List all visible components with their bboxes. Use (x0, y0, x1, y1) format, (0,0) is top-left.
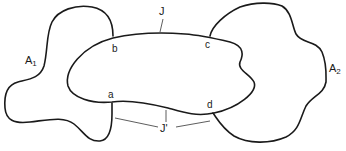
region-a2-boundary (210, 3, 326, 142)
label-point-d: d (207, 100, 213, 110)
curve-j (67, 33, 254, 114)
label-point-c: c (205, 40, 210, 50)
label-a1: A1 (25, 55, 37, 68)
region-a1-boundary (5, 6, 113, 141)
label-a2: A2 (329, 63, 341, 76)
label-point-a: a (108, 90, 114, 100)
label-point-b: b (112, 44, 118, 54)
diagram-canvas (0, 0, 346, 151)
j-prime-pointer-left (115, 118, 158, 127)
j-prime-pointer-right (176, 121, 210, 127)
label-j-prime: J' (160, 123, 168, 134)
label-j: J (159, 6, 165, 17)
j-label-pointer (160, 19, 163, 32)
topology-diagram: J A1 A2 b c a d J' (0, 0, 346, 151)
